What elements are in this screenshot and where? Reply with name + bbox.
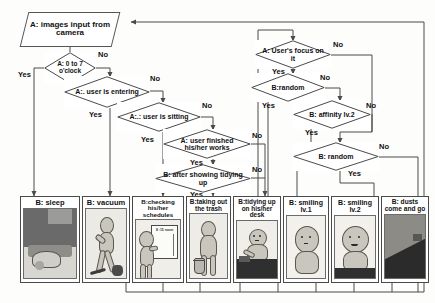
node-decision-finished-label: A: user finished his/her works [163,137,251,152]
edge-label-sitting-no: No [202,101,212,110]
edge-label-random2-no: No [379,142,389,151]
panel-trash-art [189,213,228,279]
node-decision-focus-label: A: User's focus on it [255,47,331,62]
edge-label-affinity-yes: Yes [305,128,318,137]
panel-desk[interactable]: B:tidying up on his/her desk [233,196,281,283]
node-images-input[interactable]: A: images input from camera [20,12,121,47]
edge-label-finished-yes: Yes [190,158,203,167]
edge-label-random1-no: No [320,73,330,82]
panel-sleep-caption: B: sleep [21,197,79,208]
panel-sleep-art [23,208,77,279]
edge-label-entering-no: No [150,74,160,83]
panel-smiling-lv2-art [334,215,376,279]
panel-smiling-lv2[interactable]: B: smiling lv.2 [331,196,379,283]
panel-vacuum-art [85,208,127,279]
edge-label-sitting-yes: Yes [141,135,154,144]
node-decision-clock-label: A: 0 to 7 o'clock [44,61,96,75]
panel-vacuum-caption: B: vacuum [83,197,129,208]
panel-dusts[interactable]: B: dusts come and go [381,196,429,283]
schedule-board-label: 8 :15 room [153,228,175,233]
panel-schedules-art: 8 :15 room [135,219,181,279]
panel-smiling-lv1-art [286,215,326,279]
panel-dusts-caption: B: dusts come and go [382,197,428,214]
panel-smiling-lv1[interactable]: B: smiling lv.1 [283,196,329,283]
panel-smiling-lv2-caption: B: smiling lv.2 [332,197,378,215]
node-decision-random-2-label: B: random [312,153,359,160]
edge-label-focus-yes: Yes [272,67,285,76]
panel-trash[interactable]: B:taking out the trash [186,196,231,283]
edge-label-affinity-no: No [366,101,376,110]
node-decision-affinity-label: B: affinity lv.2 [303,111,360,118]
node-decision-sitting-label: A:.: user is sitting [123,113,194,120]
panel-sleep[interactable]: B: sleep [20,196,80,283]
edge-label-focus-no: No [333,40,343,49]
edge-label-tidying-no: No [252,165,262,174]
panel-desk-caption: B:tidying up on his/her desk [234,197,280,220]
schedule-board: 8 :15 room [151,225,178,259]
edge-label-clock-no: No [98,50,108,59]
edge-label-entering-yes: Yes [89,110,102,119]
node-decision-affinity[interactable]: B: affinity lv.2 [293,100,371,129]
node-decision-random-1-label: B:random [265,84,310,91]
flowchart-canvas: A: images input from camera A: 0 to 7 o'… [0,0,435,303]
node-decision-focus[interactable]: A: User's focus on it [255,40,331,69]
node-decision-finished[interactable]: A: user finished his/her works [163,129,251,159]
panel-trash-caption: B:taking out the trash [187,197,230,213]
edge-label-random1-yes: Yes [262,101,275,110]
node-decision-tidying[interactable]: B: after showing tidying up [155,164,251,193]
edge-label-clock-yes: Yes [18,70,31,79]
panel-smiling-lv1-caption: B: smiling lv.1 [284,197,328,215]
node-decision-random-2[interactable]: B: random [293,142,379,171]
panel-dusts-art [384,214,426,279]
node-decision-entering-label: A:. user is entering [69,88,144,95]
node-decision-tidying-label: B: after showing tidying up [155,171,251,186]
edge-label-finished-no: No [252,131,262,140]
panel-schedules[interactable]: B:checking his/her schedules 8 :15 room [132,196,184,283]
node-images-input-label: A: images input from camera [25,21,115,38]
panel-schedules-caption: B:checking his/her schedules [133,197,183,219]
panel-vacuum[interactable]: B: vacuum [82,196,130,283]
node-decision-random-1[interactable]: B:random [251,73,325,102]
panel-desk-art [236,220,278,279]
edge-label-random2-yes: Yes [348,169,361,178]
node-decision-sitting[interactable]: A:.: user is sitting [117,102,201,132]
